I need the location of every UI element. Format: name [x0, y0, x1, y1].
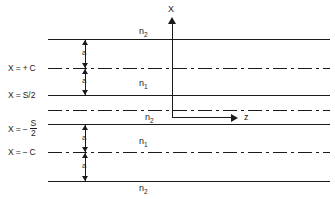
region-label-top-cladding-sub: 2: [144, 31, 148, 38]
boundary-label-x-minus-c-var: X: [8, 148, 14, 157]
boundary-label-x-minus-s-over-2-fraction: S 2: [30, 119, 38, 138]
boundary-label-x-plus-c-var: X: [8, 64, 14, 73]
boundary-label-x-plus-c-eq: =: [16, 64, 21, 73]
interface-line-top-solid: [48, 39, 330, 40]
boundary-label-x-minus-s-over-2-var: X: [8, 125, 14, 134]
boundary-label-x-plus-c-value: C: [30, 64, 36, 73]
interface-line-z-axis-level: [48, 110, 330, 111]
dimension-label-a-upper-inner: a: [82, 77, 86, 85]
z-axis-arrowhead-icon: [231, 114, 238, 122]
dim-arrow-lower-outer-bottom-icon: [82, 176, 88, 181]
dim-arrow-lower-inner-bottom-icon: [82, 147, 88, 152]
boundary-label-x-s-over-2-value: S/2: [23, 91, 36, 100]
dimension-label-a-upper-outer: a: [82, 49, 86, 57]
z-axis-label: z: [244, 113, 249, 122]
region-label-top-cladding: n2: [139, 27, 148, 38]
region-label-lower-guide-sub: 1: [144, 141, 148, 148]
region-label-bottom-cladding-sub: 2: [144, 188, 148, 195]
boundary-label-x-minus-s-over-2-sign: −: [23, 125, 28, 134]
interface-line-bottom-solid: [48, 181, 330, 182]
interface-line-x-minus-s-over-2: [48, 124, 330, 125]
x-axis-label: X: [168, 5, 174, 14]
waveguide-diagram: X z a a a a X = + C X = S/2 X = − S 2 X: [0, 0, 335, 199]
boundary-label-x-plus-c-sign: +: [23, 64, 28, 73]
region-label-center-layer-sub: 2: [150, 117, 154, 124]
dimension-label-a-lower-inner: a: [82, 134, 86, 142]
region-label-bottom-cladding: n2: [139, 184, 148, 195]
region-label-lower-guide: n1: [139, 137, 148, 148]
fraction-denominator: 2: [30, 129, 38, 138]
boundary-label-x-s-over-2-eq: =: [16, 91, 21, 100]
boundary-label-x-plus-c: X = + C: [8, 64, 36, 73]
z-axis-line: [172, 117, 232, 118]
interface-line-x-s-over-2: [48, 95, 330, 96]
boundary-label-x-minus-c-value: C: [30, 148, 36, 157]
region-label-upper-guide: n1: [139, 79, 148, 90]
x-axis-line: [172, 23, 173, 117]
region-label-upper-guide-sub: 1: [144, 83, 148, 90]
boundary-label-x-minus-c-eq: =: [16, 148, 21, 157]
boundary-label-x-minus-c: X = − C: [8, 148, 36, 157]
boundary-label-x-s-over-2: X = S/2: [8, 91, 35, 100]
region-label-center-layer: n2: [145, 113, 154, 124]
boundary-label-x-minus-c-sign: −: [23, 148, 28, 157]
boundary-label-x-minus-s-over-2-eq: =: [16, 125, 21, 134]
boundary-label-x-minus-s-over-2: X = − S 2: [8, 120, 37, 139]
dimension-label-a-lower-outer: a: [82, 162, 86, 170]
interface-line-x-minus-c: [48, 152, 330, 153]
dim-arrow-upper-inner-bottom-icon: [82, 90, 88, 95]
dim-arrow-upper-outer-bottom-icon: [82, 63, 88, 68]
interface-line-x-plus-c: [48, 68, 330, 69]
boundary-label-x-s-over-2-var: X: [8, 91, 14, 100]
